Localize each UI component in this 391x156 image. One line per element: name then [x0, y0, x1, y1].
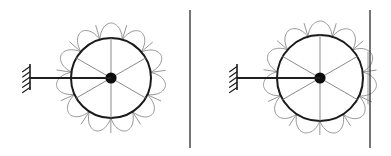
support-hatch-mark [23, 72, 30, 77]
spoke [111, 58, 146, 78]
spoke [76, 58, 111, 78]
support-hatch-mark [230, 72, 237, 77]
spoke [111, 78, 146, 98]
support-hatch-mark [23, 77, 30, 82]
spoke [320, 57, 357, 79]
lobe-segment [275, 96, 297, 119]
lobe-divider [289, 114, 296, 126]
lobe-segment [343, 96, 365, 119]
lobe-divider [61, 95, 74, 101]
support-hatch-mark [23, 82, 30, 87]
free-wheel-panel [23, 10, 190, 148]
lobe-segment [332, 29, 355, 50]
lobe-divider [147, 95, 160, 101]
lobe-segment [67, 95, 89, 117]
support-hatch-mark [230, 82, 237, 87]
lobe-segment [88, 112, 110, 131]
spoke [76, 78, 111, 98]
fixed-support-hatching-left [23, 67, 30, 93]
lobe-segment [133, 95, 155, 117]
spoke [283, 78, 320, 100]
support-hatch-mark [230, 67, 237, 72]
lobe-segment [111, 112, 133, 131]
spoke [320, 78, 357, 100]
wheel-in-contact-panel [230, 10, 377, 148]
spoke [283, 57, 320, 79]
lobe-segment [60, 50, 80, 73]
lobe-segment [141, 50, 161, 73]
support-hatch-mark [23, 87, 30, 92]
support-hatch-mark [23, 67, 30, 72]
fixed-support-hatching-right [230, 67, 237, 93]
support-hatch-mark [230, 87, 237, 92]
lobed-wheel-diagram [0, 0, 391, 156]
support-hatch-mark [230, 77, 237, 82]
lobe-segment [285, 29, 308, 50]
figure-root [0, 0, 391, 156]
lobe-divider [343, 114, 350, 126]
